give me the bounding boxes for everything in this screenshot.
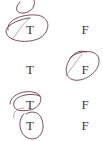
circle-mark-row-1 — [17, 0, 35, 13]
answer-sheet: T F T F T F T F — [0, 0, 103, 141]
row-4-false: F — [79, 98, 91, 111]
row-2-false: F — [79, 23, 91, 36]
row-3-false: F — [79, 63, 91, 76]
row-5-false: F — [79, 119, 91, 132]
row-3-true: T — [24, 63, 36, 76]
row-5-true: T — [24, 119, 36, 132]
row-2-true: T — [24, 23, 36, 36]
row-4-true: T — [24, 98, 36, 111]
